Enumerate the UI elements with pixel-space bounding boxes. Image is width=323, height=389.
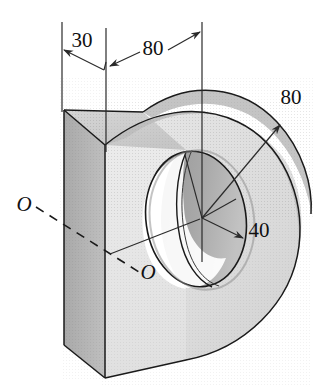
dim-line-80-right xyxy=(168,32,200,50)
dimension-label-30: 30 xyxy=(72,28,93,52)
dim-line-80-left xyxy=(110,52,140,66)
technical-drawing-figure: 30 80 80 40 O O xyxy=(0,0,323,389)
axis-label-o-left: O xyxy=(16,192,31,216)
solid-body xyxy=(60,78,315,385)
dim-line-30 xyxy=(64,50,104,70)
dimension-label-80-length: 80 xyxy=(143,36,164,60)
dimension-label-40-radius: 40 xyxy=(249,218,270,242)
dimension-label-80-radius: 80 xyxy=(281,85,302,109)
axis-label-o-right: O xyxy=(140,260,155,284)
drawing-canvas: 30 80 80 40 O O xyxy=(0,0,323,389)
side-texture xyxy=(62,108,107,380)
